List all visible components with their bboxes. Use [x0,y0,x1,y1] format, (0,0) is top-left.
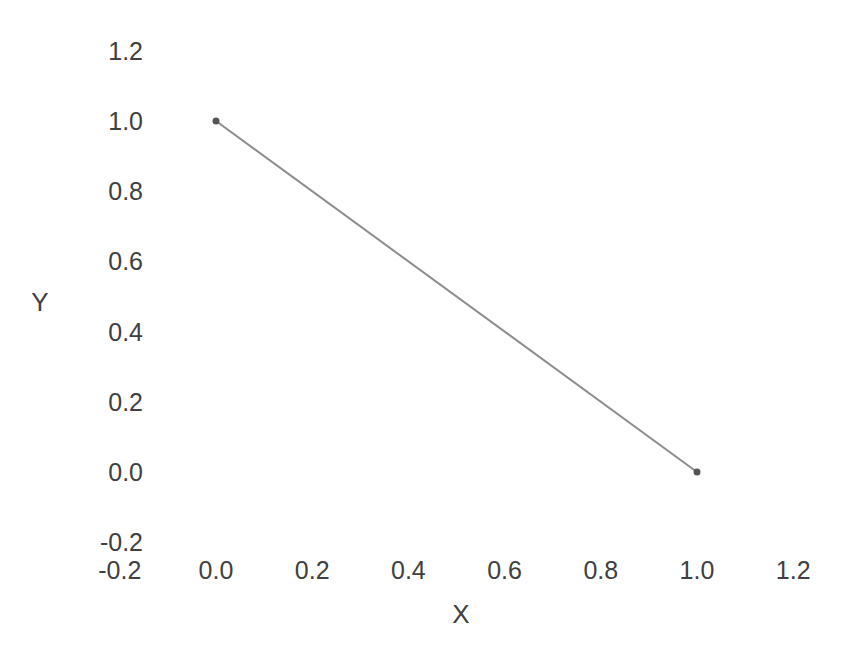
data-point-marker [213,118,220,125]
chart-figure: 1.4 1.2 1.0 0.8 0.6 0.4 0.2 0.0 -0.2 -0.… [0,0,844,655]
plot-area [0,0,844,655]
data-point-marker [694,469,701,476]
data-line [216,121,697,472]
